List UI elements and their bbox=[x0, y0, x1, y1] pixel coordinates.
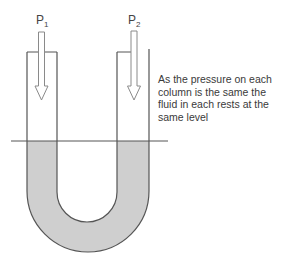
label-p2: P2 bbox=[128, 14, 140, 31]
pressure-arrow-p1 bbox=[35, 32, 48, 100]
caption-text: As the pressure on each column is the sa… bbox=[158, 73, 283, 123]
label-p1: P1 bbox=[36, 14, 48, 31]
pressure-arrow-p2 bbox=[128, 31, 141, 100]
tube-inner-wall bbox=[57, 52, 117, 222]
u-tube-diagram bbox=[0, 0, 287, 265]
